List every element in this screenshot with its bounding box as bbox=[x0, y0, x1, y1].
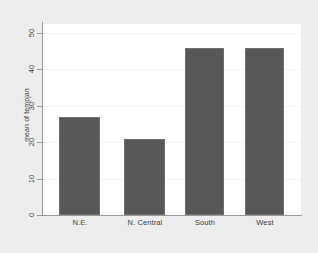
y-axis-title-text: mean of tempjan bbox=[23, 88, 30, 142]
x-axis-line bbox=[42, 215, 302, 216]
bar-south[interactable] bbox=[185, 48, 224, 215]
bar-n-central[interactable] bbox=[124, 139, 165, 215]
y-tick-mark-20 bbox=[37, 142, 42, 143]
x-tick-label-ne: N.E. bbox=[73, 218, 88, 227]
y-tick-mark-10 bbox=[37, 179, 42, 180]
y-tick-label-10: 10 bbox=[26, 179, 36, 180]
x-tick-label-west: West bbox=[256, 218, 273, 227]
gridline-50 bbox=[42, 33, 301, 34]
y-tick-label-50-text: 50 bbox=[27, 29, 36, 37]
plot-area bbox=[42, 24, 301, 215]
x-tick-label-n-central: N. Central bbox=[128, 218, 163, 227]
y-tick-label-50: 50 bbox=[26, 33, 36, 34]
y-tick-label-40-text: 40 bbox=[27, 65, 36, 73]
y-axis-line bbox=[42, 22, 43, 216]
y-tick-label-0-text: 0 bbox=[27, 213, 36, 217]
y-tick-mark-50 bbox=[37, 33, 42, 34]
bar-ne[interactable] bbox=[59, 117, 100, 215]
y-tick-label-20: 20 bbox=[26, 142, 36, 143]
y-axis-title: mean of tempjan bbox=[21, 115, 31, 116]
y-tick-label-10-text: 10 bbox=[27, 174, 36, 182]
y-tick-mark-30 bbox=[37, 106, 42, 107]
y-tick-mark-40 bbox=[37, 69, 42, 70]
bar-chart-figure: 0 10 20 30 40 50 mean of tempjan N.E. N.… bbox=[0, 0, 318, 253]
y-tick-mark-0 bbox=[37, 215, 42, 216]
x-tick-label-south: South bbox=[195, 218, 215, 227]
y-tick-label-0: 0 bbox=[26, 215, 36, 216]
y-tick-label-40: 40 bbox=[26, 69, 36, 70]
bar-west[interactable] bbox=[245, 48, 284, 215]
